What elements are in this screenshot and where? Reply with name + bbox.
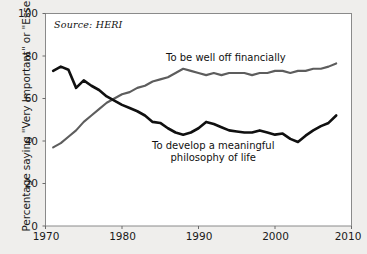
series-label-philosophy-line1: To develop a meaningful — [152, 140, 274, 152]
source-note: Source: HERI — [54, 19, 123, 30]
plot-frame — [46, 14, 352, 227]
series-label-philosophy-of-life: To develop a meaningful philosophy of li… — [152, 140, 274, 164]
series-label-well-off-financially: To be well off financially — [166, 52, 286, 64]
chart-figure: Percentage saying "Very Important" or "E… — [0, 0, 367, 254]
series-label-philosophy-line2: philosophy of life — [152, 152, 274, 164]
plot-canvas — [0, 0, 367, 254]
